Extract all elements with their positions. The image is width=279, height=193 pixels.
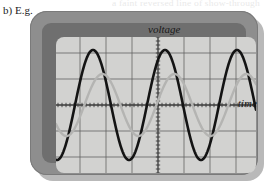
scope-bezel: voltage time — [30, 11, 258, 175]
bleed-through-text: a faint reversed line of show-through te… — [112, 0, 262, 8]
scope-screen — [56, 37, 256, 173]
oscilloscope: voltage time — [30, 11, 266, 183]
waveform-plot — [56, 37, 256, 173]
y-axis-label: voltage — [148, 23, 180, 35]
scope-inner-frame: voltage time — [42, 23, 246, 163]
figure-caption: b) E.g. — [3, 4, 33, 16]
